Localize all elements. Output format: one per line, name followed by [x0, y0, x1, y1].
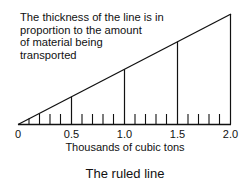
annotation-line-3: of material being [20, 36, 190, 49]
tick-label-1.5: 1.5 [170, 128, 185, 140]
annotation-text: The thickness of the line is in proporti… [20, 11, 190, 61]
tick-label-1.0: 1.0 [117, 128, 132, 140]
tick-label-0: 0 [15, 128, 21, 140]
tick-label-0.5: 0.5 [64, 128, 79, 140]
axis-title: Thousands of cubic tons [0, 141, 250, 153]
figure-title: The ruled line [0, 166, 250, 181]
annotation-line-4: transported [20, 49, 190, 62]
tick-label-2.0: 2.0 [223, 128, 238, 140]
annotation-line-2: proportion to the amount [20, 24, 190, 37]
annotation-line-1: The thickness of the line is in [20, 11, 190, 24]
